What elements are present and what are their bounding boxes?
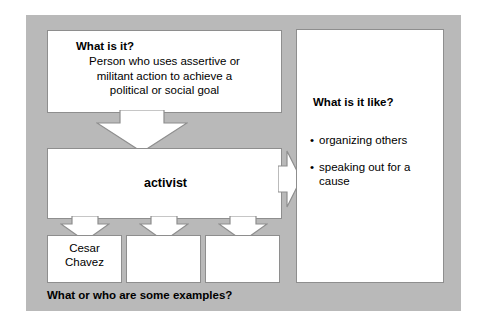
definition-line-2: militant action to achieve a [58, 69, 271, 84]
term-label: activist [48, 176, 283, 190]
example-box-2 [126, 235, 201, 283]
examples-caption: What or who are some examples? [47, 289, 297, 301]
list-item: • speaking out for a cause [310, 160, 438, 188]
attributes-list: • organizing others • speaking out for a… [310, 133, 438, 201]
definition-line-1: Person who uses assertive or [58, 54, 271, 69]
bullet-icon: • [310, 160, 314, 174]
attributes-question: What is it like? [313, 96, 394, 108]
list-item: • organizing others [310, 133, 438, 147]
term-box: activist [47, 148, 282, 219]
attribute-text: speaking out for a cause [319, 161, 410, 187]
attributes-box: What is it like? • organizing others • s… [296, 29, 444, 283]
concept-map-canvas: What is it? Person who uses assertive or… [0, 0, 483, 336]
attribute-text: organizing others [319, 134, 407, 146]
example-box-1: Cesar Chavez [47, 235, 122, 283]
definition-line-3: political or social goal [58, 83, 271, 98]
example-line-1: Cesar [54, 241, 115, 255]
example-box-3 [205, 235, 280, 283]
bullet-icon: • [310, 133, 314, 147]
definition-question: What is it? [76, 39, 271, 53]
example-line-2: Chavez [54, 255, 115, 269]
definition-box: What is it? Person who uses assertive or… [47, 30, 282, 113]
